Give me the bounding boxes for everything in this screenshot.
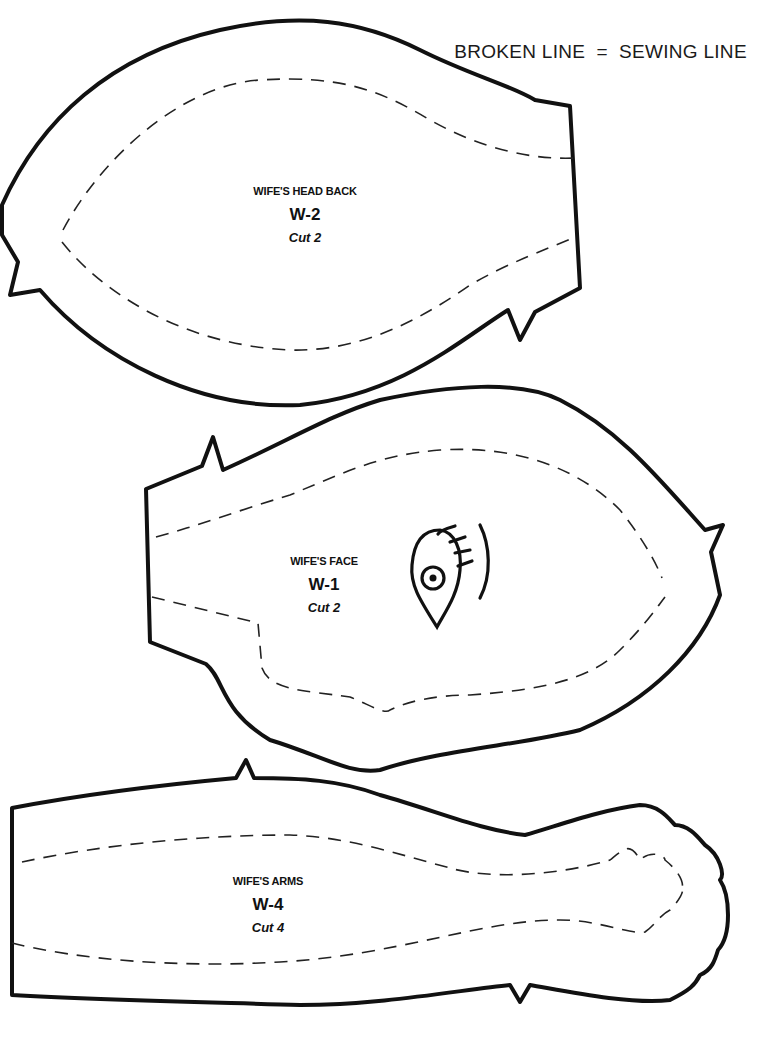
piece-code: W-2 — [253, 205, 356, 225]
face-label: WIFE'S FACE W-1 Cut 2 — [290, 555, 358, 615]
arms-piece — [12, 760, 728, 1005]
piece-code: W-4 — [233, 895, 303, 915]
piece-cut-count: Cut 2 — [253, 230, 356, 245]
face-sewing-line-bottom — [152, 597, 665, 711]
arms-sewing-line-bottom — [12, 890, 683, 964]
piece-cut-count: Cut 4 — [233, 920, 303, 935]
head-back-label: WIFE'S HEAD BACK W-2 Cut 2 — [253, 185, 356, 245]
arms-label: WIFE'S ARMS W-4 Cut 4 — [233, 875, 303, 935]
arms-cutting-line — [12, 760, 728, 1005]
head-back-sewing-line-bottom — [62, 237, 575, 350]
arms-sewing-line-top — [22, 835, 683, 890]
piece-name: WIFE'S FACE — [290, 555, 358, 567]
eye-placement-icon — [412, 525, 489, 627]
pattern-sheet — [0, 0, 770, 1058]
face-piece — [146, 387, 723, 771]
piece-name: WIFE'S ARMS — [233, 875, 303, 887]
piece-cut-count: Cut 2 — [290, 600, 358, 615]
face-sewing-line-top — [156, 449, 662, 578]
piece-code: W-1 — [290, 575, 358, 595]
piece-name: WIFE'S HEAD BACK — [253, 185, 356, 197]
